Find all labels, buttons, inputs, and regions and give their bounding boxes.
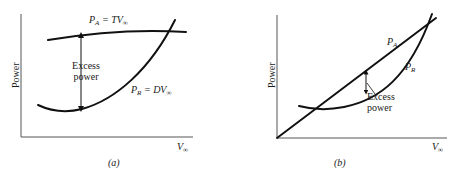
excess-power-line2: power [65, 71, 107, 82]
excess-power-label: Excess power [367, 91, 395, 113]
pr-label: PR = DV∞ [131, 84, 171, 99]
y-axis-label: Power [266, 62, 277, 88]
excess-power-label: Excess power [65, 60, 107, 82]
panel-b-plot [229, 0, 459, 177]
y-axis-label: Power [10, 62, 21, 88]
x-axis-label: V∞ [177, 141, 188, 156]
pa-label: PA = TV∞ [89, 14, 128, 29]
excess-power-line1: Excess [367, 91, 395, 102]
pr-label: PR [405, 61, 415, 76]
panel-a-caption: (a) [108, 157, 120, 168]
panel-a: Power PA = TV∞ PR = DV∞ Excess power V∞ … [0, 0, 230, 177]
x-axis-label: V∞ [432, 141, 443, 156]
power-available-line [277, 18, 436, 138]
panel-b: Power PA PR Excess power V∞ (b) [229, 0, 459, 177]
panel-b-caption: (b) [334, 157, 346, 168]
pa-label: PA [387, 36, 397, 51]
excess-power-line1: Excess [65, 60, 107, 71]
excess-power-line2: power [367, 102, 395, 113]
